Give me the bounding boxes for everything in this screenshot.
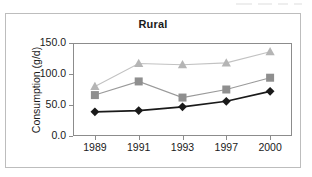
- plot-series-canvas: [73, 43, 292, 136]
- data-point-marker: [178, 102, 187, 111]
- data-point-marker: [222, 97, 231, 106]
- y-axis-tick-label: 150.0: [20, 36, 66, 48]
- x-axis-tick-mark: [95, 136, 96, 140]
- x-axis-tick-label: 1989: [73, 141, 117, 153]
- series-line: [95, 52, 270, 87]
- series-diamond: [91, 87, 275, 116]
- x-axis-tick-label: 1997: [204, 141, 248, 153]
- x-axis-tick-mark: [139, 136, 140, 140]
- x-axis-tick-label: 2000: [248, 141, 292, 153]
- data-point-marker: [179, 94, 187, 102]
- x-axis-tick-mark: [270, 136, 271, 140]
- data-point-marker: [222, 86, 230, 94]
- chart-figure: Rural Consumption (g/d) 150.0100.050.00.…: [0, 0, 312, 177]
- data-point-marker: [266, 87, 275, 96]
- chart-title: Rural: [5, 18, 301, 30]
- data-point-marker: [91, 107, 100, 116]
- y-axis-tick-mark: [69, 43, 73, 44]
- data-point-marker: [134, 59, 143, 67]
- x-axis-tick-mark: [183, 136, 184, 140]
- y-axis-tick-label: 50.0: [20, 98, 66, 110]
- x-axis-tick-label: 1993: [161, 141, 205, 153]
- y-axis-tick-mark: [69, 74, 73, 75]
- scan-artifact-marks: [236, 2, 306, 8]
- data-point-marker: [90, 82, 99, 90]
- y-axis-tick-mark: [69, 105, 73, 106]
- data-point-marker: [266, 47, 275, 55]
- data-point-marker: [266, 74, 274, 82]
- x-axis-tick-label: 1991: [117, 141, 161, 153]
- y-axis-tick-label: 0.0: [20, 129, 66, 141]
- data-point-marker: [134, 106, 143, 115]
- y-axis-tick-label: 100.0: [20, 67, 66, 79]
- data-point-marker: [135, 77, 143, 85]
- data-point-marker: [91, 91, 99, 99]
- x-axis-tick-mark: [226, 136, 227, 140]
- y-axis-tick-mark: [69, 136, 73, 137]
